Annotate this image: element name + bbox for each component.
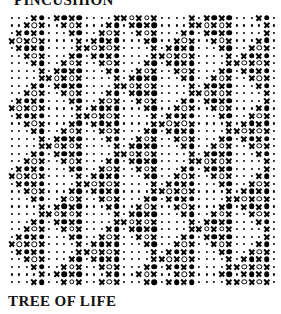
filled-circle-icon (23, 97, 31, 105)
filled-circle-icon (188, 127, 196, 135)
cross-icon (76, 263, 84, 271)
cross-icon (188, 37, 196, 45)
filled-circle-icon (151, 37, 159, 45)
dot-icon (158, 150, 166, 158)
dot-icon (8, 74, 16, 82)
dot-icon (83, 37, 91, 45)
dot-icon (23, 82, 31, 90)
cross-icon (241, 67, 249, 75)
dot-icon (121, 29, 129, 37)
chart-row (8, 105, 278, 113)
filled-circle-icon (263, 105, 271, 113)
filled-circle-icon (211, 165, 219, 173)
open-circle-icon (256, 127, 264, 135)
filled-circle-icon (226, 112, 234, 120)
filled-circle-icon (61, 135, 69, 143)
dot-icon (271, 29, 279, 37)
cross-icon (53, 82, 61, 90)
dot-icon (166, 37, 174, 45)
dot-icon (46, 195, 54, 203)
cross-icon (31, 233, 39, 241)
dot-icon (46, 218, 54, 226)
cross-icon (158, 52, 166, 60)
dot-icon (271, 112, 279, 120)
dot-icon (8, 127, 16, 135)
filled-circle-icon (151, 142, 159, 150)
dot-icon (211, 44, 219, 52)
cross-icon (211, 89, 219, 97)
dot-icon (128, 97, 136, 105)
filled-circle-icon (113, 135, 121, 143)
open-circle-icon (31, 22, 39, 30)
cross-icon (188, 240, 196, 248)
dot-icon (203, 52, 211, 60)
dot-icon (121, 135, 129, 143)
dot-icon (196, 112, 204, 120)
filled-circle-icon (188, 165, 196, 173)
cross-icon (53, 67, 61, 75)
filled-circle-icon (23, 165, 31, 173)
dot-icon (241, 105, 249, 113)
dot-icon (91, 135, 99, 143)
dot-icon (241, 233, 249, 241)
dot-icon (53, 263, 61, 271)
dot-icon (8, 278, 16, 286)
dot-icon (241, 37, 249, 45)
dot-icon (23, 67, 31, 75)
open-circle-icon (256, 180, 264, 188)
cross-icon (68, 150, 76, 158)
dot-icon (271, 97, 279, 105)
dot-icon (136, 256, 144, 264)
chart-row (8, 67, 278, 75)
cross-icon (263, 142, 271, 150)
open-circle-icon (218, 37, 226, 45)
chart-row (8, 37, 278, 45)
cross-icon (31, 195, 39, 203)
cross-icon (8, 105, 16, 113)
dot-icon (53, 188, 61, 196)
dot-icon (91, 210, 99, 218)
cross-icon (256, 240, 264, 248)
cross-icon (158, 256, 166, 264)
dot-icon (128, 233, 136, 241)
dot-icon (46, 135, 54, 143)
dot-icon (61, 248, 69, 256)
dot-icon (91, 59, 99, 67)
dot-icon (203, 67, 211, 75)
dot-icon (128, 37, 136, 45)
dot-icon (158, 240, 166, 248)
dot-icon (211, 188, 219, 196)
cross-icon (76, 180, 84, 188)
cross-icon (158, 120, 166, 128)
chart-row (8, 165, 278, 173)
dot-icon (128, 203, 136, 211)
chart-row (8, 210, 278, 218)
filled-circle-icon (76, 218, 84, 226)
cross-icon (98, 97, 106, 105)
cross-icon (76, 112, 84, 120)
dot-icon (16, 120, 24, 128)
open-circle-icon (218, 22, 226, 30)
cross-icon (68, 233, 76, 241)
dot-icon (46, 120, 54, 128)
chart-row (8, 44, 278, 52)
cross-icon (226, 105, 234, 113)
cross-icon (38, 157, 46, 165)
open-circle-icon (218, 105, 226, 113)
dot-icon (181, 22, 189, 30)
filled-circle-icon (188, 180, 196, 188)
dot-icon (241, 172, 249, 180)
dot-icon (68, 172, 76, 180)
dot-icon (136, 240, 144, 248)
cross-icon (218, 97, 226, 105)
dot-icon (53, 120, 61, 128)
filled-circle-icon (188, 74, 196, 82)
dot-icon (271, 271, 279, 279)
cross-icon (31, 29, 39, 37)
filled-circle-icon (211, 29, 219, 37)
dot-icon (196, 135, 204, 143)
cross-icon (181, 248, 189, 256)
open-circle-icon (68, 157, 76, 165)
cross-icon (248, 59, 256, 67)
dot-icon (46, 97, 54, 105)
